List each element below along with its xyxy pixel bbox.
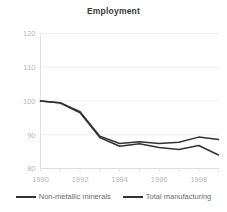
series-line-0 [41, 101, 219, 155]
data-series [41, 101, 219, 155]
legend-item-label: Total manufacturing [146, 192, 211, 201]
y-axis-tick-label: 110 [24, 63, 36, 72]
y-axis-tick-label: 120 [23, 29, 36, 38]
series-line-1 [41, 101, 219, 144]
gridlines [41, 34, 219, 169]
x-axis-tick-labels: 19901992199419961998 [32, 175, 207, 184]
x-axis-tick-label: 1990 [32, 175, 49, 184]
chart-legend: Non-metallic minerals Total manufacturin… [0, 192, 227, 201]
y-axis-tick-label: 100 [23, 97, 36, 106]
x-axis-tick-label: 1998 [190, 175, 207, 184]
x-axis-tick-label: 1994 [111, 175, 128, 184]
y-axis-tick-label: 80 [27, 164, 35, 173]
y-axis-tick-label: 90 [27, 131, 35, 140]
plot-area: 8090100110120 19901992199419961998 [0, 0, 227, 212]
x-axis-tick-marks [41, 169, 219, 172]
employment-line-chart: Employment 8090100110120 199019921994199… [0, 0, 227, 212]
x-axis-tick-label: 1992 [72, 175, 89, 184]
legend-item-total-manufacturing: Total manufacturing [123, 192, 211, 201]
legend-swatch-icon [16, 196, 36, 198]
y-axis-tick-labels: 8090100110120 [23, 29, 36, 173]
legend-swatch-icon [123, 196, 143, 198]
legend-item-label: Non-metallic minerals [39, 192, 111, 201]
x-axis-tick-label: 1996 [151, 175, 168, 184]
legend-item-non-metallic-minerals: Non-metallic minerals [16, 192, 111, 201]
